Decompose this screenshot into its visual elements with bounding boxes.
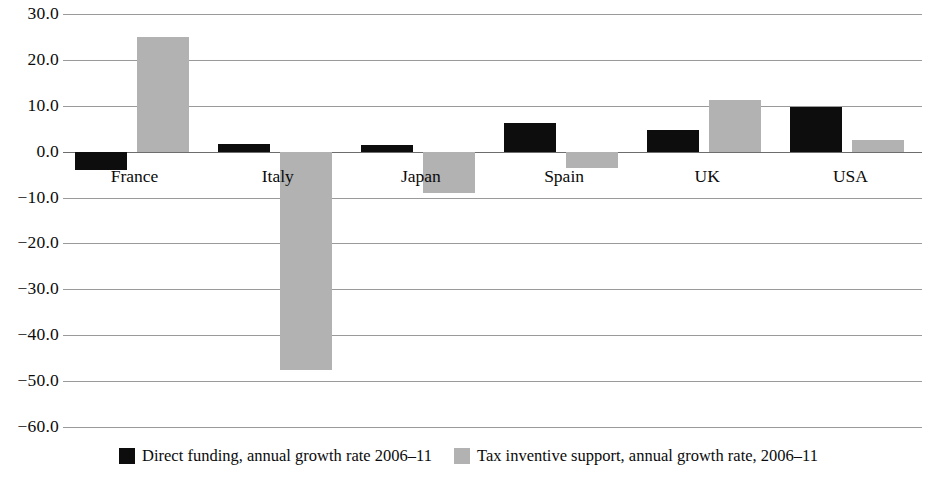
bar-japan-direct	[361, 145, 413, 151]
legend-entry: Tax inventive support, annual growth rat…	[454, 448, 818, 465]
y-axis-tick-label: −20.0	[1, 234, 59, 252]
bar-uk-tax	[709, 100, 761, 151]
gridline	[63, 243, 922, 244]
y-axis-tick-label: 20.0	[1, 51, 59, 69]
legend-label: Tax inventive support, annual growth rat…	[477, 448, 818, 465]
gridline	[63, 381, 922, 382]
chart-legend: Direct funding, annual growth rate 2006–…	[0, 448, 937, 483]
direct-funding-swatch	[119, 448, 135, 464]
bar-usa-tax	[852, 140, 904, 151]
tax-incentive-swatch	[454, 448, 470, 464]
x-axis-category-label-italy: Italy	[206, 168, 349, 186]
gridline	[63, 335, 922, 336]
y-axis-tick-label: −40.0	[1, 326, 59, 344]
legend-entry: Direct funding, annual growth rate 2006–…	[119, 448, 432, 465]
bar-uk-direct	[647, 130, 699, 152]
plot-area: FranceItalyJapanSpainUKUSA	[63, 14, 922, 427]
y-axis-tick-label: −30.0	[1, 280, 59, 298]
zero-axis-line	[63, 152, 922, 153]
bar-france-tax	[137, 37, 189, 152]
gridline	[63, 60, 922, 61]
x-axis-category-label-uk: UK	[636, 168, 779, 186]
chart-figure: 30.020.010.00.0−10.0−20.0−30.0−40.0−50.0…	[0, 0, 937, 483]
gridline	[63, 198, 922, 199]
gridline	[63, 289, 922, 290]
y-axis-tick-label: 0.0	[1, 143, 59, 161]
y-axis-tick-label: 10.0	[1, 97, 59, 115]
x-axis-category-label-france: France	[63, 168, 206, 186]
bar-usa-direct	[790, 107, 842, 152]
y-axis-tick-label: −50.0	[1, 372, 59, 390]
bar-spain-direct	[504, 123, 556, 152]
gridline	[63, 14, 922, 15]
x-axis-category-label-usa: USA	[779, 168, 922, 186]
legend-label: Direct funding, annual growth rate 2006–…	[142, 448, 432, 465]
y-axis-tick-label: −60.0	[1, 418, 59, 436]
x-axis-category-label-japan: Japan	[349, 168, 492, 186]
x-axis-category-label-spain: Spain	[493, 168, 636, 186]
y-axis-tick-label: 30.0	[1, 5, 59, 23]
y-axis: 30.020.010.00.0−10.0−20.0−30.0−40.0−50.0…	[0, 0, 59, 483]
gridline	[63, 427, 922, 428]
bar-italy-direct	[218, 144, 270, 152]
y-axis-tick-label: −10.0	[1, 189, 59, 207]
